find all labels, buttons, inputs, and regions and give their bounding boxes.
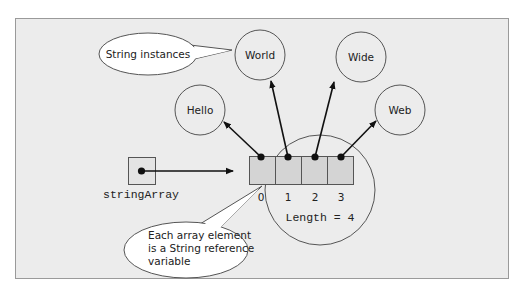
string-label: Hello xyxy=(187,104,214,116)
callout-line-3: variable xyxy=(148,255,190,267)
callout-text: String instances xyxy=(106,48,191,60)
array-cell-3 xyxy=(328,157,354,185)
callout-line-2: is a String reference xyxy=(148,242,254,254)
array-diagram: Hello World Wide Web String instances xyxy=(0,0,522,292)
index-label: 0 xyxy=(258,191,265,203)
array-cells xyxy=(250,157,354,185)
index-label: 1 xyxy=(285,191,292,203)
string-label: Wide xyxy=(348,51,374,63)
array-cell-1 xyxy=(276,157,302,185)
callout-line-1: Each array element xyxy=(148,229,251,241)
index-label: 2 xyxy=(312,191,319,203)
string-instance-world: World xyxy=(235,30,285,80)
array-cell-2 xyxy=(302,157,328,185)
string-instance-hello: Hello xyxy=(175,85,225,135)
array-length-label: Length = 4 xyxy=(285,211,354,224)
string-label: Web xyxy=(389,104,412,116)
string-instance-wide: Wide xyxy=(336,32,386,82)
string-instance-web: Web xyxy=(375,85,425,135)
string-label: World xyxy=(245,49,275,61)
index-label: 3 xyxy=(338,191,345,203)
variable-name: stringArray xyxy=(103,188,179,201)
array-cell-0 xyxy=(250,157,276,185)
